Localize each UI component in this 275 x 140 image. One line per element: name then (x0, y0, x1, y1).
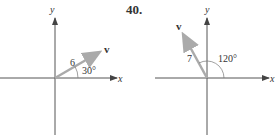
x-axis-label: x (117, 73, 123, 84)
vector-label: v (104, 43, 110, 55)
vector-label: v (176, 20, 182, 32)
angle-label: 120° (218, 53, 237, 64)
magnitude-label: 6 (70, 57, 75, 68)
problem-number: 40. (126, 2, 142, 17)
vector-diagrams: 40. x y v 6 30° x y v 7 120° (0, 0, 275, 140)
angle-arc (75, 67, 78, 79)
magnitude-label: 7 (187, 53, 192, 64)
x-axis-label: x (269, 73, 275, 84)
y-axis-label: y (49, 4, 55, 15)
figure-left: x y v 6 30° (0, 4, 123, 135)
angle-label: 30° (82, 65, 96, 76)
figure-right: x y v 7 120° (155, 4, 275, 135)
y-axis-label: y (204, 4, 210, 15)
